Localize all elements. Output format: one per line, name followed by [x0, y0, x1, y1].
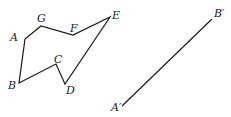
vertex-labels: AGFEDCBA′B′: [7, 7, 225, 114]
label-vertex-6: B: [7, 79, 16, 92]
label-vertex-3: E: [111, 9, 120, 22]
label-vertex-2: F: [69, 22, 78, 35]
figure-svg: AGFEDCBA′B′: [0, 0, 231, 117]
label-vertex-1: G: [37, 12, 46, 25]
label-vertex-5: C: [54, 53, 63, 66]
geometry-figure: AGFEDCBA′B′: [0, 0, 231, 117]
label-segment-0: A′: [110, 101, 122, 114]
label-vertex-4: D: [65, 84, 75, 97]
label-segment-1: B′: [213, 7, 225, 20]
polygon-ABCDEFG: [19, 17, 110, 84]
segment-A-prime-B-prime: [122, 19, 212, 106]
label-vertex-0: A: [9, 31, 18, 44]
